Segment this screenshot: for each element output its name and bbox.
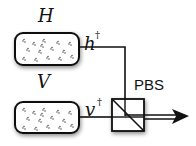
particle-dot <box>38 120 39 121</box>
pbs-label: PBS <box>134 76 164 93</box>
particle-dot <box>44 41 45 42</box>
particle-dot <box>69 42 70 43</box>
particle-dot <box>70 56 71 57</box>
output-arrowhead <box>172 109 189 124</box>
particle-dot <box>22 40 23 41</box>
particle-dot <box>62 120 63 121</box>
particle-dot <box>23 57 24 58</box>
particle-dot <box>58 127 59 128</box>
particle-dot <box>71 124 72 125</box>
particle-dot <box>28 119 29 120</box>
particle-dot <box>40 121 41 122</box>
particle-dot <box>39 50 40 51</box>
particle-dot <box>39 119 40 120</box>
particle-dot <box>34 113 35 114</box>
particle-dot <box>42 109 43 110</box>
particle-dot <box>40 114 41 115</box>
particle-dot <box>42 40 43 41</box>
particle-dot <box>50 117 51 118</box>
particle-dot <box>52 49 53 50</box>
particle-dot <box>56 111 57 112</box>
particle-dot <box>64 121 65 122</box>
particle-dot <box>42 46 43 47</box>
particle-dot <box>47 125 48 126</box>
particle-dot <box>51 47 52 48</box>
particle-dot <box>33 42 34 43</box>
particle-dot <box>40 52 41 53</box>
particle-dot <box>58 112 59 113</box>
particle-dot <box>62 51 63 52</box>
source-h-label: H <box>37 5 54 26</box>
mode-h-label: h <box>84 33 96 54</box>
particle-dot <box>38 51 39 52</box>
particle-dot <box>41 44 42 45</box>
particle-dot <box>28 50 29 51</box>
particle-dot <box>35 58 36 59</box>
particle-dot <box>59 57 60 58</box>
particle-dot <box>47 56 48 57</box>
particle-dot <box>24 41 25 42</box>
particle-dot <box>63 50 64 51</box>
particle-dot <box>48 58 49 59</box>
particle-dot <box>36 60 37 61</box>
particle-dot <box>44 110 45 111</box>
particle-dot <box>57 41 58 42</box>
particle-dot <box>68 112 69 113</box>
particle-dot <box>40 45 41 46</box>
particle-dot <box>23 108 24 109</box>
particle-dot <box>51 116 52 117</box>
particle-dot <box>27 48 28 49</box>
particle-dot <box>24 110 25 111</box>
particle-dot <box>27 117 28 118</box>
particle-dot <box>42 115 43 116</box>
particle-dot <box>70 125 71 126</box>
particle-dot <box>34 128 35 129</box>
particle-dot <box>22 127 23 128</box>
particle-dot <box>60 128 61 129</box>
particle-dot <box>43 39 44 40</box>
particle-dot <box>63 119 64 120</box>
particle-dot <box>33 111 34 112</box>
particle-dot <box>58 58 59 59</box>
particle-dot <box>23 39 24 40</box>
mode-v-dagger: † <box>97 96 102 107</box>
particle-dot <box>32 43 33 44</box>
particle-dot <box>58 43 59 44</box>
particle-dot <box>36 129 37 130</box>
particle-dot <box>32 112 33 113</box>
particle-dot <box>68 43 69 44</box>
particle-dot <box>41 113 42 114</box>
particle-dot <box>52 118 53 119</box>
particle-dot <box>26 49 27 50</box>
particle-dot <box>59 126 60 127</box>
particle-dot <box>64 52 65 53</box>
particle-dot <box>60 59 61 60</box>
particle-dot <box>22 58 23 59</box>
particle-dot <box>70 113 71 114</box>
particle-dot <box>35 127 36 128</box>
particle-dot <box>34 59 35 60</box>
particle-dot <box>46 126 47 127</box>
particle-dot <box>57 110 58 111</box>
particle-dot <box>24 59 25 60</box>
source-v-box <box>15 102 79 133</box>
particle-dot <box>34 44 35 45</box>
particle-dot <box>26 118 27 119</box>
particle-dot <box>70 44 71 45</box>
particle-dot <box>72 57 73 58</box>
particle-dot <box>23 126 24 127</box>
particle-dot <box>24 128 25 129</box>
particle-dot <box>56 42 57 43</box>
particle-dot <box>22 109 23 110</box>
particle-dot <box>48 127 49 128</box>
particle-dot <box>72 126 73 127</box>
particle-dot <box>43 108 44 109</box>
particle-dot <box>50 48 51 49</box>
particle-dot <box>46 57 47 58</box>
mode-h-dagger: † <box>95 29 100 40</box>
diagram-canvas: H h † V v † PBS <box>0 0 196 146</box>
source-v-label: V <box>37 71 52 92</box>
particle-dot <box>71 55 72 56</box>
particle-dot <box>69 111 70 112</box>
